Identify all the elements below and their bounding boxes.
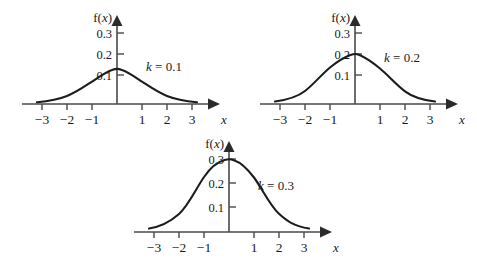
x-axis-label: x [458,112,465,127]
plot-panel-k-0-2: 0.3 0.2 0.1 −3 −2 −1 1 2 3 f(x) x k = 0.… [238,0,477,130]
x-axis-arrowhead [208,99,220,110]
x-tick-label-1: 1 [251,240,258,255]
y-axis-label: f(x) [205,136,224,151]
x-axis-label: x [220,112,227,127]
y-tick-label-0-1: 0.1 [334,69,350,83]
plot-panel-k-0-3: 0.3 0.2 0.1 −3 −2 −1 1 2 3 f(x) x k = 0.… [112,132,362,263]
plot-panel-k-0-1: 0.3 0.2 0.1 −3 −2 −1 1 2 3 f(x) x k = 0.… [0,0,240,130]
x-tick-label--1: −1 [85,112,99,127]
y-axis-arrowhead [224,141,235,152]
y-axis-arrowhead [350,15,361,26]
y-tick-label-0-2: 0.2 [96,48,112,62]
annotation-k-value: k = 0.1 [146,59,182,74]
x-tick-label-2: 2 [402,112,409,127]
y-axis-label: f(x) [331,10,350,25]
x-tick-label--2: −2 [172,240,186,255]
x-tick-label--3: −3 [147,240,162,255]
x-tick-label--1: −1 [323,112,337,127]
x-tick-label--3: −3 [35,112,50,127]
y-axis-arrowhead [112,15,123,26]
y-tick-label-0-3: 0.3 [334,27,350,41]
annotation-k-value: k = 0.2 [384,50,420,65]
x-tick-label-2: 2 [164,112,171,127]
gaussian-curves-figure: 0.3 0.2 0.1 −3 −2 −1 1 2 3 f(x) x k = 0.… [0,0,477,263]
x-axis-label: x [332,240,339,255]
y-tick-label-0-1: 0.1 [208,201,224,215]
y-tick-label-0-2: 0.2 [208,177,224,191]
x-tick-label-1: 1 [377,112,384,127]
x-tick-label--2: −2 [298,112,312,127]
x-tick-label-3: 3 [301,240,308,255]
x-tick-label--2: −2 [60,112,74,127]
x-tick-label-3: 3 [427,112,434,127]
x-axis-arrowhead [446,99,458,110]
y-axis-label: f(x) [93,10,112,25]
x-tick-label-2: 2 [276,240,283,255]
x-tick-label-1: 1 [139,112,146,127]
y-tick-label-0-3: 0.3 [96,27,112,41]
x-tick-label-3: 3 [189,112,196,127]
x-tick-label--1: −1 [197,240,211,255]
x-tick-label--3: −3 [273,112,288,127]
x-axis-arrowhead [320,227,332,238]
